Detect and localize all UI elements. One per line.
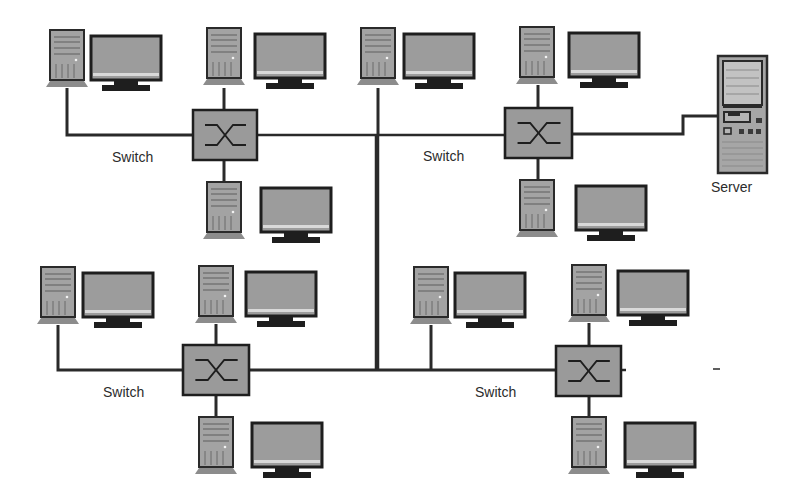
network-switch-icon	[505, 108, 572, 158]
pc-tower-icon	[203, 28, 245, 85]
pc-tower-icon	[410, 267, 452, 324]
switch-label-bottom-left: Switch	[103, 384, 144, 400]
pc-tower-icon	[203, 182, 245, 239]
workstation	[410, 267, 525, 328]
monitor-icon	[91, 36, 161, 91]
monitor-icon	[625, 423, 695, 478]
pc-tower-icon	[195, 266, 237, 323]
workstation	[203, 28, 325, 89]
monitor-icon	[618, 271, 688, 326]
server	[718, 56, 767, 173]
network-switch-icon	[183, 345, 249, 395]
pc-tower-icon	[37, 267, 79, 324]
workstation	[357, 28, 474, 89]
workstation	[516, 27, 639, 88]
monitor-icon	[255, 34, 325, 89]
cable-ws-bl-1	[58, 325, 183, 370]
switch-label-top-right: Switch	[423, 148, 464, 164]
workstation	[195, 266, 316, 327]
server-label: Server	[711, 179, 752, 195]
network-switch-icon	[193, 110, 257, 160]
pc-tower-icon	[568, 417, 610, 474]
monitor-icon	[252, 423, 322, 478]
network-diagram: Switch Switch Switch Switch Server	[0, 0, 798, 500]
monitor-icon	[569, 33, 639, 88]
workstation	[516, 180, 646, 241]
monitor-icon	[83, 273, 153, 328]
network-switch-icon	[556, 346, 621, 396]
switch-label-top-left: Switch	[112, 149, 153, 165]
workstation	[37, 267, 153, 328]
pc-tower-icon	[46, 30, 88, 87]
workstation	[46, 30, 161, 91]
switch-label-bottom-right: Switch	[475, 384, 516, 400]
devices	[37, 27, 695, 478]
workstation	[195, 417, 322, 478]
monitor-icon	[246, 272, 316, 327]
monitor-icon	[404, 34, 474, 89]
pc-tower-icon	[568, 265, 610, 322]
workstation	[203, 182, 331, 243]
monitor-icon	[455, 273, 525, 328]
monitor-icon	[576, 186, 646, 241]
workstation	[568, 265, 688, 326]
pc-tower-icon	[516, 27, 558, 84]
network-diagram-canvas	[0, 0, 798, 500]
cable-ws-tl-1	[67, 88, 193, 135]
pc-tower-icon	[195, 417, 237, 474]
pc-tower-icon	[357, 28, 399, 85]
monitor-icon	[261, 188, 331, 243]
cable-server	[572, 116, 718, 134]
workstation	[568, 417, 695, 478]
pc-tower-icon	[516, 180, 558, 237]
